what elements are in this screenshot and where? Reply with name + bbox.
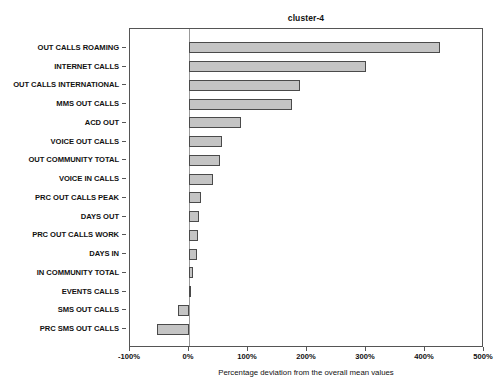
x-axis-tick-label: 400%: [414, 352, 433, 361]
x-axis-tick-mark: [247, 347, 248, 351]
x-axis-tick-label: 500%: [473, 352, 492, 361]
y-axis-tick-label: EVENTS CALLS: [62, 286, 119, 295]
y-axis-tick-label: VOICE IN CALLS: [59, 174, 119, 183]
bar: [189, 136, 222, 147]
bar: [189, 42, 440, 53]
y-axis-tick-label: VOICE OUT CALLS: [51, 136, 119, 145]
bar-chart: cluster-4 OUT CALLS ROAMINGINTERNET CALL…: [0, 0, 503, 392]
bar: [189, 192, 201, 203]
y-axis-tick-label: IN COMMUNITY TOTAL: [37, 267, 119, 276]
x-axis-tick-label: -100%: [118, 352, 140, 361]
y-axis-tick-mark: [122, 178, 126, 179]
y-axis-tick-mark: [122, 272, 126, 273]
y-axis-tick-mark: [122, 234, 126, 235]
x-axis-tick-label: 300%: [355, 352, 374, 361]
y-axis-tick-label: OUT COMMUNITY TOTAL: [28, 155, 119, 164]
y-axis-tick-label: PRC SMS OUT CALLS: [40, 324, 119, 333]
bar: [189, 249, 197, 260]
x-axis-tick-mark: [424, 347, 425, 351]
plot-area: [129, 28, 483, 347]
y-axis-tick-mark: [122, 47, 126, 48]
y-axis-tick-mark: [122, 328, 126, 329]
y-axis-tick-label: INTERNET CALLS: [54, 61, 119, 70]
bar: [189, 211, 199, 222]
y-axis-tick-mark: [122, 84, 126, 85]
y-axis-tick-mark: [122, 253, 126, 254]
y-axis-tick-label: OUT CALLS ROAMING: [38, 42, 119, 51]
y-axis-tick-label: DAYS IN: [89, 249, 119, 258]
x-axis-tick-label: 0%: [183, 352, 194, 361]
x-axis-tick-mark: [365, 347, 366, 351]
y-axis-tick-label: PRC OUT CALLS WORK: [32, 230, 119, 239]
bar: [189, 99, 292, 110]
y-axis-tick-mark: [122, 197, 126, 198]
x-axis-tick-labels: -100%0%100%200%300%400%500%: [0, 352, 503, 366]
y-axis-tick-mark: [122, 103, 126, 104]
bar: [189, 80, 300, 91]
bar: [189, 174, 213, 185]
x-axis-tick-label: 100%: [237, 352, 256, 361]
y-axis-labels: OUT CALLS ROAMINGINTERNET CALLSOUT CALLS…: [0, 28, 126, 347]
y-axis-tick-mark: [122, 159, 126, 160]
x-axis-title: Percentage deviation from the overall me…: [129, 368, 483, 377]
bar: [189, 61, 366, 72]
y-axis-tick-mark: [122, 122, 126, 123]
bar: [189, 117, 241, 128]
x-axis-tick-label: 200%: [296, 352, 315, 361]
y-axis-tick-label: DAYS OUT: [81, 211, 119, 220]
x-axis-tick-mark: [306, 347, 307, 351]
y-axis-tick-mark: [122, 66, 126, 67]
chart-title: cluster-4: [129, 13, 483, 23]
bar: [189, 286, 191, 297]
y-axis-tick-label: OUT CALLS INTERNATIONAL: [13, 80, 119, 89]
y-axis-tick-label: ACD OUT: [85, 117, 119, 126]
bar: [189, 155, 220, 166]
x-axis-tick-mark: [483, 347, 484, 351]
bars-layer: [130, 29, 482, 346]
y-axis-tick-mark: [122, 309, 126, 310]
y-axis-tick-mark: [122, 216, 126, 217]
bar: [178, 305, 189, 316]
bar: [157, 324, 189, 335]
x-axis-tick-mark: [188, 347, 189, 351]
bar: [189, 267, 193, 278]
y-axis-tick-label: MMS OUT CALLS: [56, 99, 119, 108]
y-axis-tick-label: SMS OUT CALLS: [58, 305, 119, 314]
bar: [189, 230, 198, 241]
x-axis-tick-mark: [129, 347, 130, 351]
y-axis-tick-mark: [122, 141, 126, 142]
y-axis-tick-label: PRC OUT CALLS PEAK: [35, 192, 119, 201]
y-axis-tick-mark: [122, 291, 126, 292]
